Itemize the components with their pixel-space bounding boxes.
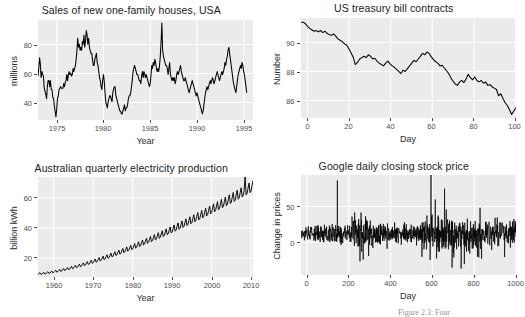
panel-1-x-tick: 1990 bbox=[184, 124, 210, 133]
panel-australian-electricity-production: Australian quarterly electricity product… bbox=[0, 159, 263, 317]
panel-4-y-tick: 0 bbox=[277, 239, 295, 248]
panel-4-plot-area bbox=[301, 175, 516, 275]
panel-3-title: Australian quarterly electricity product… bbox=[0, 162, 263, 174]
panel-2-y-tickmark bbox=[297, 43, 300, 44]
panel-2-x-tick: 100 bbox=[502, 122, 525, 131]
panel-1-y-tickmark bbox=[34, 45, 37, 46]
panel-4-x-tickmark bbox=[390, 275, 391, 278]
panel-grid: Sales of new one-family houses, USA mill… bbox=[0, 0, 525, 317]
panel-3-x-tickmark bbox=[133, 277, 134, 280]
panel-2-x-tickmark bbox=[515, 118, 516, 121]
panel-3-x-tick: 1980 bbox=[120, 281, 146, 290]
panel-1-x-axis-label: Year bbox=[38, 136, 253, 146]
panel-2-x-tick: 20 bbox=[336, 122, 362, 131]
panel-3-y-tickmark bbox=[34, 197, 37, 198]
panel-3-y-tick: 60 bbox=[14, 194, 32, 203]
panel-1-x-tick: 1980 bbox=[90, 124, 116, 133]
panel-1-x-tick: 1995 bbox=[231, 124, 257, 133]
panel-sales-new-one-family-houses: Sales of new one-family houses, USA mill… bbox=[0, 0, 263, 159]
panel-2-x-tickmark bbox=[349, 118, 350, 121]
panel-4-x-tick: 400 bbox=[378, 279, 404, 288]
panel-2-y-tick: 88 bbox=[277, 68, 295, 77]
panel-4-x-tick: 600 bbox=[419, 279, 445, 288]
panel-3-y-tickmark bbox=[34, 257, 37, 258]
panel-4-x-tick: 1000 bbox=[503, 279, 525, 288]
panel-2-y-tickmark bbox=[297, 101, 300, 102]
panel-1-x-tickmark bbox=[103, 120, 104, 123]
panel-4-x-tickmark bbox=[432, 275, 433, 278]
panel-3-x-tick: 1970 bbox=[80, 281, 106, 290]
panel-1-x-tick: 1975 bbox=[44, 124, 70, 133]
panel-4-x-tickmark bbox=[348, 275, 349, 278]
panel-2-y-tick: 86 bbox=[277, 97, 295, 106]
panel-3-x-tick: 1990 bbox=[159, 281, 185, 290]
panel-3-plot-area bbox=[38, 177, 253, 277]
panel-3-x-tick: 1960 bbox=[41, 281, 67, 290]
panel-1-x-tickmark bbox=[197, 120, 198, 123]
panel-4-x-tickmark bbox=[474, 275, 475, 278]
panel-2-x-tick: 60 bbox=[419, 122, 445, 131]
panel-4-y-axis-label: Change in prices bbox=[272, 182, 282, 270]
panel-2-title: US treasury bill contracts bbox=[263, 2, 525, 14]
panel-4-x-tick: 0 bbox=[294, 279, 320, 288]
panel-1-x-tickmark bbox=[150, 120, 151, 123]
panel-4-x-tick: 200 bbox=[336, 279, 362, 288]
panel-1-y-tick: 60 bbox=[14, 70, 32, 79]
panel-2-x-tick: 40 bbox=[378, 122, 404, 131]
panel-3-y-tickmark bbox=[34, 227, 37, 228]
panel-3-x-tickmark bbox=[172, 277, 173, 280]
panel-2-x-axis-label: Day bbox=[301, 134, 516, 144]
panel-2-x-tickmark bbox=[390, 118, 391, 121]
panel-4-x-tickmark bbox=[516, 275, 517, 278]
figure-four-time-series: Sales of new one-family houses, USA mill… bbox=[0, 0, 525, 317]
panel-2-y-tick: 90 bbox=[277, 39, 295, 48]
panel-4-title: Google daily closing stock price bbox=[263, 160, 525, 172]
panel-us-treasury-bill-contracts: US treasury bill contracts Number 90 88 … bbox=[263, 0, 525, 159]
panel-4-x-tick: 800 bbox=[461, 279, 487, 288]
panel-1-y-tick: 80 bbox=[14, 41, 32, 50]
panel-4-y-tickmark bbox=[297, 242, 300, 243]
panel-2-x-tickmark bbox=[473, 118, 474, 121]
panel-4-x-tickmark bbox=[307, 275, 308, 278]
panel-1-title: Sales of new one-family houses, USA bbox=[0, 4, 263, 16]
panel-3-x-axis-label: Year bbox=[38, 293, 253, 303]
panel-3-x-tickmark bbox=[212, 277, 213, 280]
panel-2-x-tick: 80 bbox=[461, 122, 487, 131]
panel-4-y-tick: 50 bbox=[277, 203, 295, 212]
panel-2-x-tickmark bbox=[307, 118, 308, 121]
panel-4-y-tickmark bbox=[297, 206, 300, 207]
panel-1-y-tickmark bbox=[34, 74, 37, 75]
panel-google-daily-closing-stock-price: Google daily closing stock price Change … bbox=[263, 159, 525, 317]
panel-1-x-tick: 1985 bbox=[137, 124, 163, 133]
panel-4-x-axis-label: Day bbox=[301, 291, 516, 301]
panel-1-x-tickmark bbox=[57, 120, 58, 123]
panel-2-plot-area bbox=[301, 18, 516, 118]
panel-2-x-tickmark bbox=[432, 118, 433, 121]
panel-3-x-tickmark bbox=[54, 277, 55, 280]
figure-caption: Figure 2.3: Four bbox=[398, 308, 450, 317]
panel-3-y-tick: 20 bbox=[14, 254, 32, 263]
panel-1-x-tickmark bbox=[244, 120, 245, 123]
panel-3-y-tick: 40 bbox=[14, 224, 32, 233]
panel-2-y-tickmark bbox=[297, 72, 300, 73]
panel-3-x-tick: 2000 bbox=[199, 281, 225, 290]
panel-3-x-tickmark bbox=[251, 277, 252, 280]
panel-2-x-tick: 0 bbox=[295, 122, 321, 131]
panel-1-plot-area bbox=[38, 20, 253, 120]
panel-3-x-tickmark bbox=[93, 277, 94, 280]
panel-1-y-tick: 40 bbox=[14, 99, 32, 108]
panel-3-x-tick: 2010 bbox=[238, 281, 264, 290]
panel-1-y-tickmark bbox=[34, 103, 37, 104]
